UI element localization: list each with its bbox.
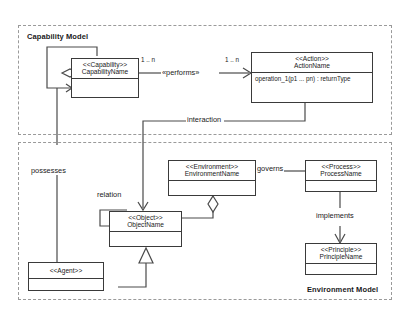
class-capability[interactable]: <<Capability>> CapabilityName <box>71 58 139 98</box>
aggregation-diamond-environment <box>208 196 218 212</box>
class-principle-compartment <box>306 264 376 273</box>
class-object-stereotype: <<Object>> <box>112 214 179 221</box>
class-environment-compartment <box>169 181 255 190</box>
uml-diagram-canvas: Capability Model Environment Model <box>0 0 405 316</box>
class-environment[interactable]: <<Environment>> EnvironmentName <box>168 160 256 196</box>
class-action-stereotype: <<Action>> <box>254 55 370 62</box>
class-action-header: <<Action>> ActionName <box>252 53 372 73</box>
label-relation: relation <box>96 190 122 199</box>
class-agent-compartment <box>29 279 103 288</box>
class-capability-header: <<Capability>> CapabilityName <box>72 59 138 79</box>
class-principle-name: PrincipleName <box>308 253 374 260</box>
class-process-name: ProcessName <box>308 170 374 177</box>
class-process-header: <<Process>> ProcessName <box>306 161 376 181</box>
class-agent[interactable]: <<Agent>> <box>28 262 104 291</box>
class-capability-name: CapabilityName <box>74 68 136 75</box>
label-performs: «performs» <box>161 68 200 77</box>
class-principle[interactable]: <<Principle>> PrincipleName <box>305 243 377 275</box>
label-interaction: interaction <box>186 115 222 124</box>
class-principle-header: <<Principle>> PrincipleName <box>306 244 376 264</box>
class-process-compartment <box>306 181 376 190</box>
class-action-operation: operation_1(p1 ... pn) : returnType <box>252 73 372 84</box>
multiplicity-performs-target: 1 .. n <box>225 56 239 63</box>
multiplicity-performs-source: 1 .. n <box>141 56 155 63</box>
class-action[interactable]: <<Action>> ActionName operation_1(p1 ...… <box>251 52 373 103</box>
label-possesses: possesses <box>30 166 67 175</box>
class-principle-stereotype: <<Principle>> <box>308 246 374 253</box>
interaction-line-right <box>224 103 305 121</box>
class-agent-stereotype: <<Agent>> <box>31 267 101 274</box>
class-process-stereotype: <<Process>> <box>308 163 374 170</box>
class-environment-header: <<Environment>> EnvironmentName <box>169 161 255 181</box>
generalization-line <box>118 262 146 287</box>
class-object-name: ObjectName <box>112 221 179 228</box>
class-capability-compartment <box>72 79 138 88</box>
class-capability-stereotype: <<Capability>> <box>74 61 136 68</box>
class-agent-header: <<Agent>> <box>29 263 103 279</box>
class-object-compartment <box>110 232 181 241</box>
class-action-name: ActionName <box>254 62 370 69</box>
class-object-header: <<Object>> ObjectName <box>110 212 181 232</box>
class-object[interactable]: <<Object>> ObjectName <box>109 211 182 247</box>
class-environment-name: EnvironmentName <box>171 170 253 177</box>
label-governs: governs <box>256 164 284 173</box>
generalization-triangle <box>139 248 153 263</box>
class-process[interactable]: <<Process>> ProcessName <box>305 160 377 192</box>
class-environment-stereotype: <<Environment>> <box>171 163 253 170</box>
label-implements: implements <box>315 211 355 220</box>
